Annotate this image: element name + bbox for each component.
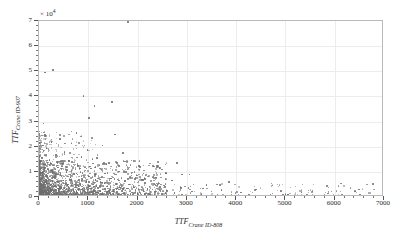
data-point	[51, 195, 53, 196]
data-point	[85, 189, 86, 190]
data-point	[114, 134, 116, 136]
x-axis-minor-tick	[304, 196, 305, 198]
data-point	[91, 195, 93, 196]
data-point	[127, 178, 129, 180]
data-point	[101, 195, 103, 196]
data-point	[76, 141, 77, 142]
data-point	[65, 168, 66, 169]
data-point	[108, 192, 110, 194]
data-point	[191, 191, 193, 193]
data-point	[72, 195, 74, 196]
data-point	[52, 69, 54, 71]
data-point	[87, 192, 88, 193]
data-point	[89, 195, 90, 196]
data-point	[44, 196, 46, 197]
data-point	[134, 195, 136, 196]
y-axis-minor-tick	[36, 65, 38, 66]
y-axis-minor-tick	[36, 166, 38, 167]
data-point	[280, 190, 281, 191]
y-axis-minor-tick	[36, 126, 38, 127]
data-point	[42, 152, 43, 153]
data-point	[295, 186, 296, 187]
data-point	[90, 168, 92, 170]
data-point	[143, 195, 145, 196]
data-point	[61, 195, 62, 196]
data-point	[53, 188, 54, 189]
data-point	[172, 189, 173, 190]
y-axis-minor-tick	[36, 40, 38, 41]
data-point	[111, 101, 113, 103]
data-point	[143, 195, 145, 196]
data-point	[81, 180, 82, 181]
data-point	[76, 194, 77, 195]
data-point	[121, 190, 123, 192]
data-point	[138, 169, 140, 171]
data-point	[340, 191, 341, 192]
data-point	[57, 167, 59, 169]
data-point	[41, 195, 43, 196]
data-point	[372, 183, 373, 184]
x-axis-minor-tick	[275, 196, 276, 198]
data-point	[104, 195, 106, 196]
data-point	[130, 164, 132, 166]
data-point	[343, 185, 344, 186]
data-point	[87, 170, 89, 172]
data-point	[118, 180, 120, 182]
data-point	[290, 195, 292, 196]
data-point	[110, 195, 112, 196]
data-point	[139, 160, 141, 162]
data-point	[64, 187, 65, 188]
data-point	[89, 195, 91, 196]
y-axis-minor-tick	[36, 136, 38, 137]
data-point	[91, 194, 92, 195]
x-axis-minor-tick	[166, 196, 167, 198]
data-point	[247, 195, 248, 196]
data-point	[62, 177, 63, 178]
data-point	[156, 174, 158, 176]
data-point	[127, 173, 129, 175]
x-axis-tick-label: 0	[36, 199, 40, 207]
data-point	[160, 184, 161, 185]
data-point	[133, 160, 135, 162]
y-axis-minor-tick	[36, 105, 38, 106]
data-point	[269, 195, 270, 196]
data-point	[181, 174, 183, 176]
data-point	[143, 189, 145, 191]
data-point	[46, 143, 47, 144]
data-point	[53, 159, 54, 160]
data-point	[154, 195, 156, 196]
data-point	[44, 183, 45, 184]
data-point	[160, 173, 162, 175]
data-point	[278, 186, 279, 187]
data-point	[90, 177, 91, 178]
data-point	[176, 162, 178, 164]
data-point	[266, 195, 267, 196]
data-point	[116, 166, 118, 168]
data-point	[98, 195, 100, 196]
data-point	[139, 195, 140, 196]
data-point	[160, 195, 162, 196]
data-point	[114, 178, 116, 180]
data-point	[40, 195, 42, 196]
data-point	[62, 195, 64, 196]
data-point	[73, 173, 75, 175]
data-point	[92, 149, 93, 150]
data-point	[99, 164, 101, 166]
data-point	[122, 195, 124, 196]
data-point	[115, 174, 117, 176]
data-point	[155, 171, 157, 173]
data-point	[40, 196, 41, 197]
data-point	[43, 195, 44, 196]
data-point	[277, 190, 278, 191]
data-point	[120, 195, 122, 196]
data-point	[184, 186, 185, 187]
data-point	[65, 160, 67, 162]
data-point	[55, 156, 56, 157]
data-point	[45, 195, 46, 196]
data-point	[101, 186, 103, 188]
data-point	[64, 153, 65, 154]
data-point	[166, 162, 168, 164]
y-axis-minor-tick	[36, 30, 38, 31]
data-point	[81, 186, 82, 187]
y-axis-tick	[34, 196, 38, 197]
